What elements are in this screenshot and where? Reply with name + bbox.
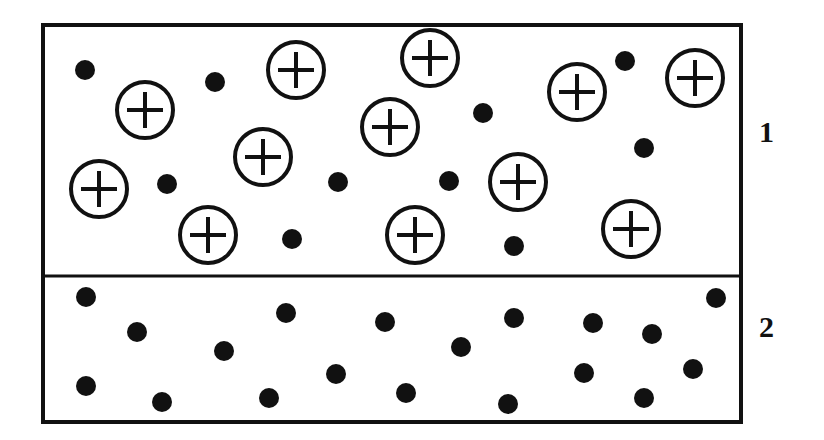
positive-ion (603, 201, 659, 257)
electron-dot (259, 388, 279, 408)
electron-dot (504, 236, 524, 256)
electron-dot (583, 313, 603, 333)
positive-ion (117, 82, 173, 138)
electron-dot (683, 359, 703, 379)
electron-dot (498, 394, 518, 414)
positive-ion (180, 207, 236, 263)
positive-ion (387, 207, 443, 263)
positive-ion (549, 64, 605, 120)
electron-dot (75, 60, 95, 80)
electron-dot (214, 341, 234, 361)
positive-ion (490, 154, 546, 210)
positive-ion (268, 42, 324, 98)
electron-dot (76, 376, 96, 396)
electron-dot (634, 138, 654, 158)
region-2-label: 2 (759, 310, 774, 344)
region-1-label: 1 (759, 115, 774, 149)
electron-dot (473, 103, 493, 123)
electron-dot (76, 287, 96, 307)
electron-dot (152, 392, 172, 412)
positive-ion (71, 161, 127, 217)
region-1 (71, 30, 723, 263)
electron-dot (326, 364, 346, 384)
electron-dot (574, 363, 594, 383)
electron-dot (615, 51, 635, 71)
electron-dot (205, 72, 225, 92)
charge-distribution-diagram (0, 0, 824, 440)
positive-ion (667, 50, 723, 106)
electron-dot (706, 288, 726, 308)
electron-dot (642, 324, 662, 344)
electron-dot (451, 337, 471, 357)
electron-dot (375, 312, 395, 332)
electron-dot (157, 174, 177, 194)
electron-dot (127, 322, 147, 342)
electron-dot (282, 229, 302, 249)
electron-dot (634, 388, 654, 408)
electron-dot (504, 308, 524, 328)
electron-dot (328, 172, 348, 192)
electron-dot (439, 171, 459, 191)
electron-dot (396, 383, 416, 403)
region-2 (76, 287, 726, 414)
positive-ion (235, 129, 291, 185)
positive-ion (402, 30, 458, 86)
electron-dot (276, 303, 296, 323)
positive-ion (362, 99, 418, 155)
